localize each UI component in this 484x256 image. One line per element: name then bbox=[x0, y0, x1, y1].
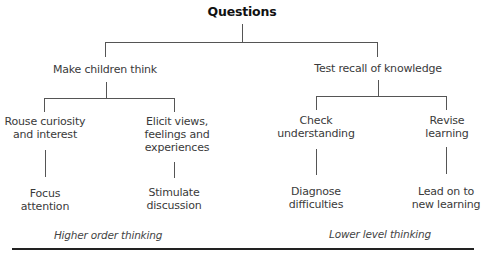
node-line: difficulties bbox=[280, 198, 352, 211]
node-line: attention bbox=[10, 200, 80, 213]
node-make-children-think: Make children think bbox=[40, 63, 170, 76]
connector-line bbox=[44, 98, 45, 112]
node-line: Lead on to bbox=[408, 185, 484, 198]
connector-line bbox=[106, 82, 107, 98]
connector-line bbox=[174, 98, 175, 112]
connector-line bbox=[316, 96, 317, 110]
node-check-understanding: Check understanding bbox=[276, 114, 356, 140]
footer-higher-order: Higher order thinking bbox=[48, 229, 168, 242]
footer-lower-level: Lower level thinking bbox=[320, 228, 440, 241]
connector-line bbox=[377, 42, 378, 57]
node-revise-learning: Revise learning bbox=[412, 114, 482, 140]
node-line: feelings and bbox=[134, 128, 220, 141]
node-test-recall: Test recall of knowledge bbox=[308, 62, 448, 75]
node-line: learning bbox=[412, 127, 482, 140]
connector-line bbox=[45, 150, 46, 177]
node-line: Revise bbox=[412, 114, 482, 127]
node-line: understanding bbox=[276, 127, 356, 140]
bottom-rule bbox=[12, 248, 474, 250]
node-line: experiences bbox=[134, 141, 220, 154]
diagram-title: Questions bbox=[192, 5, 292, 18]
node-rouse-curiosity: Rouse curiosity and interest bbox=[0, 115, 90, 141]
node-stimulate-discussion: Stimulate discussion bbox=[134, 186, 214, 212]
node-line: Stimulate bbox=[134, 186, 214, 199]
connector-line bbox=[316, 149, 317, 175]
connector-line bbox=[378, 80, 379, 96]
connector-line bbox=[44, 98, 175, 99]
connector-line bbox=[242, 24, 243, 42]
connector-line bbox=[174, 162, 175, 178]
node-focus-attention: Focus attention bbox=[10, 187, 80, 213]
connector-line bbox=[105, 42, 106, 57]
node-elicit-views: Elicit views, feelings and experiences bbox=[134, 115, 220, 154]
connector-line bbox=[105, 42, 378, 43]
node-line: Diagnose bbox=[280, 185, 352, 198]
node-line: Rouse curiosity bbox=[0, 115, 90, 128]
connector-line bbox=[446, 96, 447, 110]
node-line: and interest bbox=[0, 128, 90, 141]
node-line: Check bbox=[276, 114, 356, 127]
node-line: discussion bbox=[134, 199, 214, 212]
node-diagnose-difficulties: Diagnose difficulties bbox=[280, 185, 352, 211]
connector-line bbox=[316, 96, 447, 97]
node-line: new learning bbox=[408, 198, 484, 211]
node-line: Focus bbox=[10, 187, 80, 200]
node-line: Elicit views, bbox=[134, 115, 220, 128]
connector-line bbox=[446, 147, 447, 174]
node-lead-on: Lead on to new learning bbox=[408, 185, 484, 211]
